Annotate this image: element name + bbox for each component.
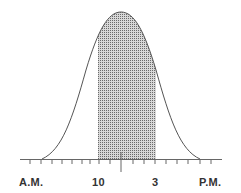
shaded-region [98, 0, 156, 159]
bell-curve-figure [0, 0, 241, 193]
axis-ticks [30, 152, 211, 172]
axis-label-pm: P.M. [199, 176, 221, 188]
axis-label-10: 10 [92, 176, 105, 188]
axis-label-am: A.M. [19, 176, 43, 188]
axis-label-3: 3 [152, 176, 158, 188]
